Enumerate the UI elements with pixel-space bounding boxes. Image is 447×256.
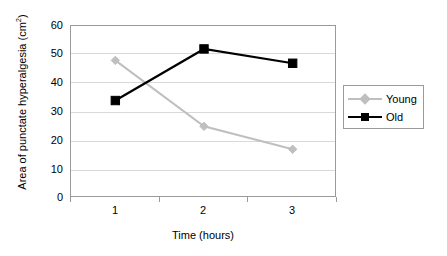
legend-swatch-old [348, 110, 382, 124]
y-axis-title-superscript: 2 [14, 18, 23, 22]
line-chart: Area of punctate hyperalgesia (cm2) 60 5… [0, 0, 447, 256]
diamond-marker-icon [359, 93, 370, 104]
y-tick-label-50: 50 [33, 48, 63, 59]
y-axis-title: Area of punctate hyperalgesia (cm2) [16, 7, 28, 197]
legend-item-young: Young [344, 91, 423, 107]
y-tick-label-30: 30 [33, 106, 63, 117]
x-axis-title: Time (hours) [70, 229, 336, 241]
series-markers-young [111, 56, 297, 153]
series-line-young [115, 60, 292, 149]
legend: Young Old [343, 85, 424, 129]
x-tick-label-2: 2 [183, 205, 223, 216]
x-tickmark-right [336, 197, 337, 202]
x-tickmark-2 [247, 197, 248, 202]
x-tickmark-1 [159, 197, 160, 202]
x-tick-label-3: 3 [272, 205, 312, 216]
y-axis-title-tail: ) [16, 14, 28, 18]
legend-label-old: Old [386, 112, 403, 123]
square-marker-icon [361, 113, 369, 121]
data-point-old-1 [111, 96, 119, 104]
series-markers-old [111, 45, 297, 105]
y-axis-title-base: Area of punctate hyperalgesia (cm [16, 22, 28, 190]
plot-area [70, 25, 336, 197]
data-point-young-3 [288, 145, 296, 153]
plot-series-layer [71, 26, 337, 198]
legend-swatch-young [348, 92, 382, 106]
y-tick-label-20: 20 [33, 135, 63, 146]
y-tick-label-10: 10 [33, 164, 63, 175]
legend-label-young: Young [386, 94, 417, 105]
legend-item-old: Old [344, 109, 423, 125]
x-tickmark-left [70, 197, 71, 202]
y-tick-label-0: 0 [33, 192, 63, 203]
x-tick-label-1: 1 [95, 205, 135, 216]
data-point-old-2 [200, 45, 208, 53]
series-line-old [115, 49, 292, 101]
y-tick-label-60: 60 [33, 20, 63, 31]
y-tick-label-40: 40 [33, 77, 63, 88]
data-point-old-3 [288, 59, 296, 67]
